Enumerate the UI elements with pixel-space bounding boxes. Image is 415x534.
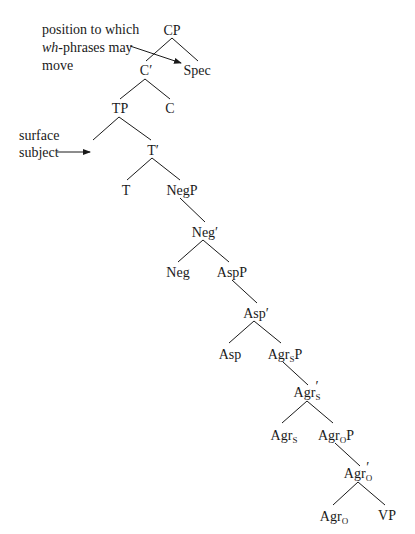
edge-negbar-aspp [203, 240, 229, 262]
subject-label: subject [19, 145, 59, 160]
tree-nodes: CP Spec C′ TP C T′ T NegP Neg′ Neg AspP … [112, 23, 396, 526]
edge-cbar-c [145, 79, 170, 99]
node-agrs: AgrS [271, 428, 298, 445]
edge-agrsbar-agrop [307, 401, 333, 423]
node-agrop: AgrOP [318, 428, 354, 445]
note-line-2-rest: -phrases may [58, 40, 132, 55]
edge-agrop-agrobar [335, 443, 360, 466]
edge-agrsbar-agrs [282, 401, 307, 423]
edge-aspbar-agrsp [254, 321, 281, 343]
node-agro: AgrO [320, 509, 349, 526]
syntax-tree-diagram: position to which wh-phrases may move su… [0, 0, 415, 534]
note-line-2: wh-phrases may [42, 40, 133, 55]
node-spec: Spec [183, 63, 210, 78]
note-wh-italic: wh [42, 40, 58, 55]
edge-cbar-tp [120, 79, 145, 99]
surface-subject-note: surface subject [19, 128, 59, 160]
edge-aspbar-asp [229, 321, 254, 343]
node-asp-bar: Asp′ [243, 306, 269, 321]
edge-agrsp-agrsbar [283, 362, 308, 385]
edge-tbar-t [127, 158, 152, 180]
node-c-bar: C′ [140, 63, 152, 78]
node-neg: Neg [166, 265, 189, 280]
node-agrs-bar: AgrS′ [294, 379, 321, 402]
node-agro-bar: AgrO′ [344, 460, 373, 483]
node-aspp: AspP [217, 265, 248, 280]
edge-cp-cbar [146, 38, 172, 61]
node-asp: Asp [219, 347, 242, 362]
edge-negbar-neg [178, 240, 203, 262]
node-vp: VP [378, 508, 396, 523]
wh-position-note: position to which wh-phrases may move [42, 22, 139, 73]
edge-tbar-negp [152, 158, 180, 180]
node-tp: TP [112, 101, 129, 116]
edge-aspp-aspbar [232, 280, 257, 303]
note-line-3: move [42, 58, 73, 73]
edge-tp-tbar [119, 117, 151, 140]
node-agrsp: AgrSP [268, 347, 303, 364]
surface-label: surface [19, 128, 59, 143]
edge-agrobar-agro [333, 482, 358, 505]
note-line-1: position to which [42, 22, 139, 37]
node-c: C [165, 101, 174, 116]
node-cp: CP [163, 23, 180, 38]
edge-negp-negbar [180, 198, 205, 222]
edge-agrobar-vp [358, 482, 385, 505]
node-t-bar: T′ [147, 143, 159, 158]
node-t: T [122, 183, 131, 198]
edge-cp-spec [172, 38, 198, 61]
edge-tp-spec [93, 117, 119, 140]
node-neg-bar: Neg′ [192, 225, 218, 240]
wh-arrow-icon [130, 46, 181, 63]
node-negp: NegP [166, 183, 197, 198]
